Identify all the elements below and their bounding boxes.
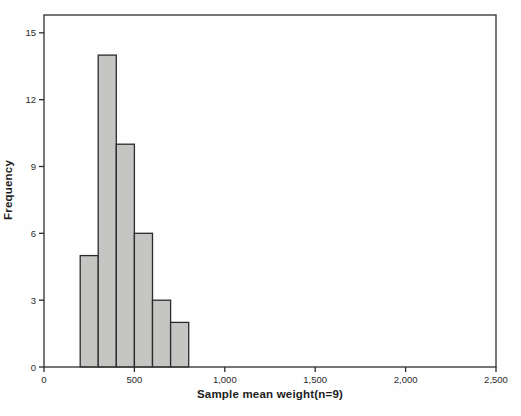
histogram-figure: 0369121505001,0001,5002,0002,500 Sample …	[0, 0, 521, 416]
histogram-bar	[80, 256, 98, 367]
y-axis-title: Frequency	[2, 160, 14, 220]
y-tick-label: 12	[25, 94, 36, 105]
histogram-bar	[134, 233, 152, 367]
y-tick-label: 9	[31, 161, 36, 172]
y-tick-label: 3	[31, 295, 36, 306]
x-tick-label: 1,000	[213, 374, 237, 385]
y-tick-label: 6	[31, 228, 36, 239]
histogram-bar	[98, 55, 116, 367]
x-tick-label: 2,500	[484, 374, 508, 385]
x-axis-title: Sample mean weight(n=9)	[44, 388, 496, 400]
y-tick-label: 15	[25, 27, 36, 38]
x-tick-label: 1,500	[303, 374, 327, 385]
y-tick-label: 0	[31, 362, 36, 373]
x-tick-label: 2,000	[394, 374, 418, 385]
histogram-bar	[116, 144, 134, 367]
histogram-bar	[153, 300, 171, 367]
histogram-plot-area: 0369121505001,0001,5002,0002,500	[0, 0, 521, 416]
x-tick-label: 500	[126, 374, 142, 385]
x-tick-label: 0	[41, 374, 46, 385]
histogram-bar	[171, 322, 189, 367]
